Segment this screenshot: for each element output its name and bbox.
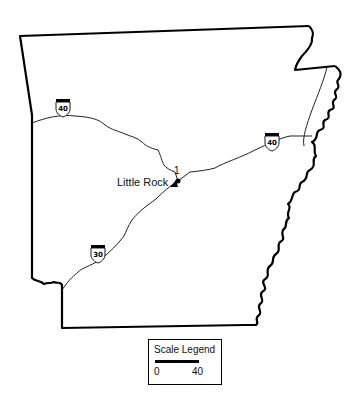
interstate-30-shield: 30: [91, 245, 105, 263]
svg-text:40: 40: [58, 105, 68, 113]
state-border-northeast: [295, 26, 335, 70]
interstate-40-shield-east: 40: [265, 133, 279, 151]
mississippi-river-border: [245, 66, 341, 325]
interstate-30-road: [62, 181, 178, 290]
city-label: Little Rock: [117, 176, 169, 188]
city-dot-icon: [176, 179, 181, 184]
svg-text:30: 30: [93, 251, 103, 259]
city-marker-number: 1: [174, 165, 180, 176]
scale-legend: Scale Legend 0 40: [148, 339, 222, 385]
interstate-40-west-road: [32, 115, 178, 181]
interstate-40-east-road: [178, 136, 312, 181]
legend-title: Scale Legend: [154, 344, 215, 355]
legend-min-label: 0: [154, 366, 160, 377]
river-channel: [304, 67, 327, 146]
svg-text:40: 40: [267, 139, 277, 147]
legend-max-label: 40: [192, 366, 203, 377]
interstate-40-shield-west: 40: [56, 99, 70, 117]
scale-bar: [155, 360, 199, 363]
